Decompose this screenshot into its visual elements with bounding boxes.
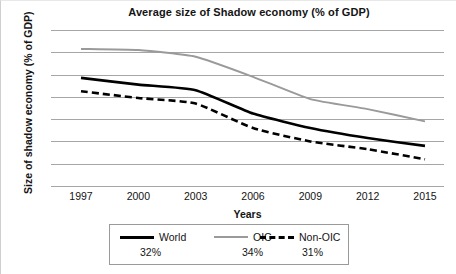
legend-swatch-bar: [260, 236, 294, 239]
legend-value: 31%: [260, 246, 412, 258]
x-tick-label-2006: 2006: [233, 190, 273, 202]
x-axis-title: Years: [51, 208, 444, 220]
legend-label: Non-OIC: [299, 231, 340, 243]
chart-legend: World32%OIC34%Non-OIC31%: [109, 224, 349, 265]
x-tick-label-2015: 2015: [405, 190, 445, 202]
series-line-non-oic: [81, 91, 425, 159]
x-tick-label-1997: 1997: [61, 190, 101, 202]
legend-swatch-bar: [214, 236, 248, 238]
chart-title: Average size of Shadow economy (% of GDP…: [53, 6, 445, 18]
legend-swatch-world-icon: [120, 231, 154, 243]
legend-swatch-oic-icon: [214, 231, 248, 243]
legend-entry-non-oic[interactable]: Non-OIC31%: [260, 229, 370, 263]
x-tick-label-2009: 2009: [290, 190, 330, 202]
x-tick-label-2000: 2000: [118, 190, 158, 202]
legend-swatch-non-oic-icon: [260, 231, 294, 243]
series-lines: [51, 30, 444, 186]
x-tick-label-2012: 2012: [348, 190, 388, 202]
x-tick-label-2003: 2003: [176, 190, 216, 202]
gridline-25: [51, 186, 444, 187]
legend-label: World: [159, 231, 186, 243]
x-axis-tick-labels: 1997200020032006200920122015: [51, 190, 444, 206]
shadow-economy-line-chart: Average size of Shadow economy (% of GDP…: [0, 0, 456, 274]
series-line-world: [81, 78, 425, 146]
legend-swatch-bar: [120, 236, 154, 239]
y-axis-title: Size of shadow economy (% of GDP): [22, 14, 34, 194]
plot-area: [51, 30, 444, 186]
